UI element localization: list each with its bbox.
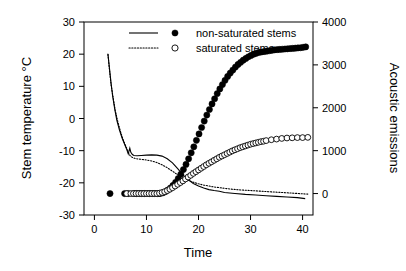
- y-tick-label-right: 0: [322, 188, 328, 200]
- legend-label-saturated: saturated stems: [196, 42, 275, 54]
- chart-legend: non-saturated stems saturated stems: [129, 27, 297, 54]
- y-axis-left-title: Stem temperature °C: [19, 57, 34, 179]
- data-point-marker: [186, 156, 192, 162]
- y-tick-label-left: 20: [63, 48, 75, 60]
- x-tick-label: 30: [244, 223, 256, 235]
- y-tick-label-right: 3000: [322, 59, 346, 71]
- legend-label-non-saturated: non-saturated stems: [196, 27, 297, 39]
- series-markers-group: [107, 44, 311, 197]
- y-tick-label-right: 2000: [322, 102, 346, 114]
- data-point-marker: [201, 118, 207, 124]
- x-axis-title: Time: [184, 245, 212, 260]
- y-tick-label-left: -30: [59, 209, 75, 221]
- y-tick-label-right: 4000: [322, 16, 346, 28]
- y-tick-label-left: -20: [59, 177, 75, 189]
- acoustic-emissions-chart: -30-20-100102030 01000200030004000 01020…: [0, 0, 406, 271]
- data-point-marker: [196, 131, 202, 137]
- legend-marker-open-circle-icon: [172, 45, 178, 51]
- series-path: [108, 54, 305, 198]
- y-axis-left-ticks: -30-20-100102030: [59, 16, 84, 221]
- y-axis-right-ticks: 01000200030004000: [313, 16, 346, 200]
- x-axis-ticks: 010203040: [91, 215, 308, 235]
- legend-marker-filled-circle-icon: [172, 30, 178, 36]
- x-tick-label: 20: [192, 223, 204, 235]
- y-tick-label-left: 0: [69, 113, 75, 125]
- data-point-marker: [191, 144, 197, 150]
- y-tick-label-right: 1000: [322, 145, 346, 157]
- series-path: [108, 54, 308, 194]
- data-point-marker: [199, 124, 205, 130]
- chart-canvas: -30-20-100102030 01000200030004000 01020…: [0, 0, 406, 271]
- y-tick-label-left: 10: [63, 80, 75, 92]
- data-point-marker: [303, 44, 309, 50]
- data-point-marker: [107, 190, 113, 196]
- y-tick-label-left: -10: [59, 145, 75, 157]
- data-point-marker: [206, 106, 212, 112]
- data-point-marker: [188, 150, 194, 156]
- data-point-marker: [183, 161, 189, 167]
- x-tick-label: 10: [140, 223, 152, 235]
- y-tick-label-left: 30: [63, 16, 75, 28]
- data-point-marker: [305, 134, 311, 140]
- data-point-marker: [193, 137, 199, 143]
- series-lines-group: [108, 54, 308, 198]
- data-point-marker: [204, 112, 210, 118]
- y-axis-right-title: Acoustic emissions: [387, 63, 402, 174]
- x-tick-label: 0: [91, 223, 97, 235]
- x-tick-label: 40: [296, 223, 308, 235]
